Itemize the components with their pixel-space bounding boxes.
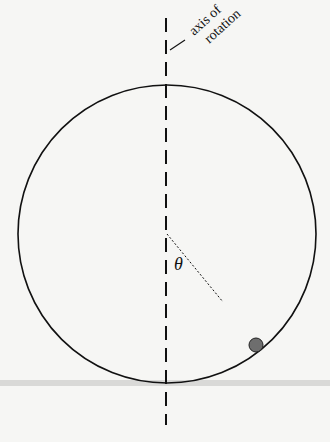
diagram-canvas: axis of rotation θ [0,0,330,442]
diagram-svg: axis of rotation θ [0,0,330,442]
label-leader-line [170,40,185,50]
bead [249,338,263,352]
angle-theta-label: θ [174,254,183,274]
axis-label-group: axis of rotation [186,0,244,50]
